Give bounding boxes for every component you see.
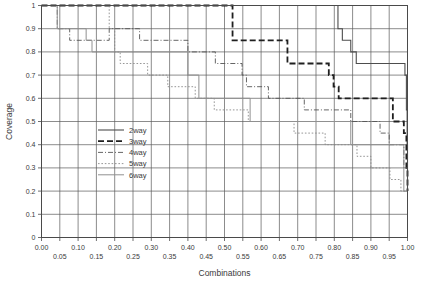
x-axis-title: Combinations: [199, 268, 251, 278]
x-tick-label: 0.95: [382, 253, 396, 260]
x-tick-label: 0.60: [254, 244, 268, 251]
legend-label-3way: 3way: [129, 137, 147, 146]
x-tick-label: 0.05: [53, 253, 67, 260]
x-tick-label: 0.30: [144, 244, 158, 251]
legend-label-2way: 2way: [129, 126, 147, 135]
y-tick-label: 0.6: [26, 95, 36, 102]
x-tick-label: 0.20: [108, 244, 122, 251]
y-tick-label: 0.9: [26, 25, 36, 32]
y-tick-label: 0.4: [26, 141, 36, 148]
legend-label-4way: 4way: [129, 148, 147, 157]
coverage-vs-combinations-chart: 0.000.050.100.150.200.250.300.350.400.45…: [0, 0, 421, 291]
x-tick-label: 0.25: [126, 253, 140, 260]
chart-figure: 0.000.050.100.150.200.250.300.350.400.45…: [0, 0, 421, 291]
x-tick-label: 0.90: [364, 244, 378, 251]
x-tick-label: 0.10: [71, 244, 85, 251]
x-tick-label: 0.55: [236, 253, 250, 260]
x-tick-label: 0.80: [327, 244, 341, 251]
x-tick-label: 0.15: [90, 253, 104, 260]
x-tick-label: 0.65: [273, 253, 287, 260]
y-axis-title: Coverage: [4, 103, 14, 140]
y-tick-label: 0.5: [26, 118, 36, 125]
y-tick-label: 0.1: [26, 211, 36, 218]
x-tick-label: 0.45: [199, 253, 213, 260]
y-tick-label: 0.3: [26, 164, 36, 171]
y-tick-label: 1: [32, 2, 36, 9]
y-tick-label: 0.8: [26, 48, 36, 55]
chart-background: [0, 0, 421, 291]
y-tick-label: 0.2: [26, 188, 36, 195]
legend-label-5way: 5way: [129, 159, 147, 168]
legend-label-6way: 6way: [129, 171, 147, 180]
y-tick-label: 0: [32, 234, 36, 241]
x-tick-label: 1.00: [401, 244, 415, 251]
y-tick-label: 0.7: [26, 72, 36, 79]
x-tick-label: 0.70: [291, 244, 305, 251]
x-tick-label: 0.50: [218, 244, 232, 251]
x-tick-label: 0.00: [35, 244, 49, 251]
x-tick-label: 0.40: [181, 244, 195, 251]
x-tick-label: 0.75: [309, 253, 323, 260]
x-tick-label: 0.85: [346, 253, 360, 260]
x-tick-label: 0.35: [163, 253, 177, 260]
